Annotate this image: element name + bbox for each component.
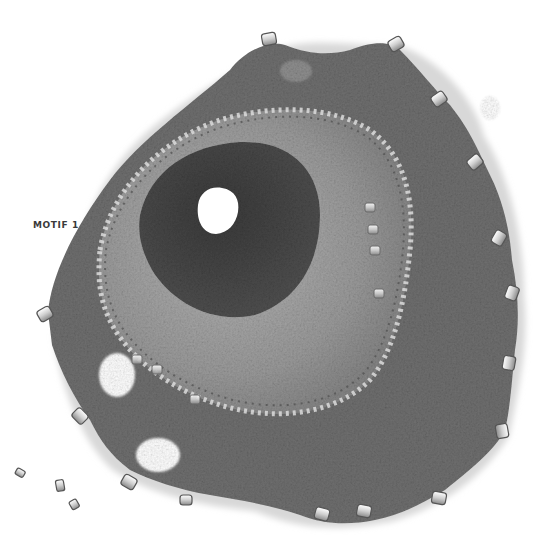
loose-beads [15,467,80,510]
crochet-motif-illustration [0,0,551,554]
motif-photo: MOTIF 1 [0,0,551,554]
motif-caption: MOTIF 1 [33,220,79,230]
